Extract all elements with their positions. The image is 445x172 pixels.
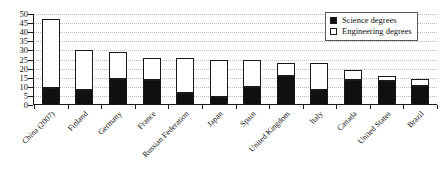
bar-segment-engineering[interactable] xyxy=(109,52,127,78)
bar-segment-engineering[interactable] xyxy=(243,60,261,87)
y-tick-label: 25 xyxy=(20,55,29,64)
bar-segment-engineering[interactable] xyxy=(176,58,194,93)
bar-segment-engineering[interactable] xyxy=(210,60,228,97)
bar-segment-science[interactable] xyxy=(109,79,127,105)
chart-container: 05101520253035404550 China (2007)Finland… xyxy=(0,0,445,172)
legend-item-science: Science degrees xyxy=(330,15,412,26)
chart-legend: Science degrees Engineering degrees xyxy=(325,12,418,41)
bar-segment-science[interactable] xyxy=(176,93,194,105)
bar-segment-science[interactable] xyxy=(243,87,261,105)
y-tick-label: 35 xyxy=(20,37,29,46)
bar-segment-engineering[interactable] xyxy=(344,70,362,79)
x-axis-labels: China (2007)FinlandGermanyFranceRussian … xyxy=(0,105,445,172)
bar-segment-science[interactable] xyxy=(75,90,93,105)
bar-segment-science[interactable] xyxy=(310,90,328,105)
bar-segment-engineering[interactable] xyxy=(75,50,93,89)
y-tick-label: 15 xyxy=(20,73,29,82)
legend-item-engineering: Engineering degrees xyxy=(330,26,412,37)
y-tick-label: 45 xyxy=(20,19,29,28)
bar-segment-science[interactable] xyxy=(411,86,429,105)
y-tick-label: 40 xyxy=(20,28,29,37)
legend-swatch-engineering-icon xyxy=(330,28,337,35)
bar-segment-science[interactable] xyxy=(210,97,228,105)
bar-segment-science[interactable] xyxy=(277,76,295,105)
bar-segment-science[interactable] xyxy=(143,80,161,105)
bar-segment-engineering[interactable] xyxy=(143,58,161,80)
legend-swatch-science-icon xyxy=(330,17,337,24)
bar-segment-science[interactable] xyxy=(42,88,60,105)
y-tick-label: 50 xyxy=(20,10,29,19)
bar-segment-engineering[interactable] xyxy=(277,63,295,76)
y-tick-label: 20 xyxy=(20,64,29,73)
y-axis: 05101520253035404550 xyxy=(0,0,33,105)
bar-segment-science[interactable] xyxy=(344,80,362,105)
bar-segment-engineering[interactable] xyxy=(42,19,60,87)
bar-segment-science[interactable] xyxy=(378,81,396,105)
y-tick-label: 30 xyxy=(20,46,29,55)
bar-segment-engineering[interactable] xyxy=(411,79,429,86)
bar-segment-engineering[interactable] xyxy=(378,76,396,81)
legend-label-engineering: Engineering degrees xyxy=(342,27,412,36)
x-axis-category-label: China (2007) xyxy=(0,110,56,172)
legend-label-science: Science degrees xyxy=(342,16,397,25)
bar-segment-engineering[interactable] xyxy=(310,63,328,90)
y-tick-label: 10 xyxy=(20,83,29,92)
